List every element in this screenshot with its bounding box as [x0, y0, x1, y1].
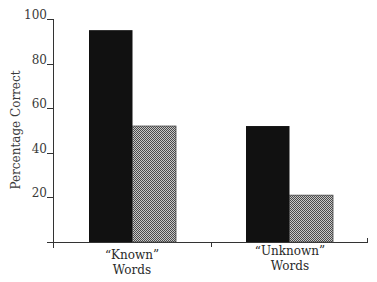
y-tick-label: 80 [32, 53, 47, 67]
y-tick-label: 100 [24, 8, 47, 22]
bars [89, 30, 333, 242]
category-label-known-line2: Words [113, 263, 151, 277]
bar-unknown-series-1 [246, 126, 290, 242]
bar-unknown-series-2 [290, 195, 334, 242]
category-label-known-line1: “Known” [105, 248, 159, 262]
category-label-unknown-line2: Words [271, 259, 309, 273]
category-label-unknown-line1: “Unknown” [255, 244, 325, 258]
y-tick-label: 40 [32, 142, 47, 156]
bar-known-series-1 [89, 30, 133, 242]
y-tick-label: 20 [32, 186, 47, 200]
category-labels: “Known” Words “Unknown” Words [105, 244, 325, 277]
y-axis-label: Percentage Correct [9, 70, 23, 189]
bar-known-series-2 [133, 126, 177, 242]
y-ticks: 20406080100 [24, 8, 54, 200]
y-tick-label: 60 [32, 97, 47, 111]
bar-chart: Percentage Correct 20406080100 “Known” W… [0, 0, 377, 282]
